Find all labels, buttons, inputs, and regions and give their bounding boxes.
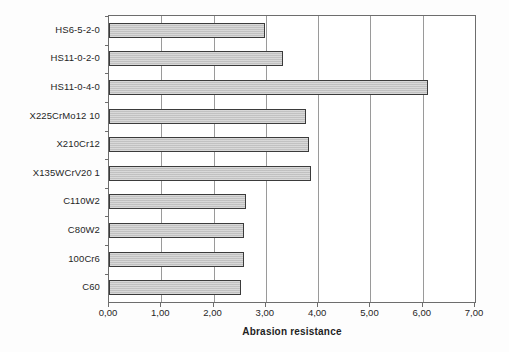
x-axis-tick-label: 7,00 xyxy=(465,307,484,319)
bar xyxy=(109,23,265,38)
category-label: C80W2 xyxy=(8,224,104,235)
y-axis-tick xyxy=(105,188,109,189)
x-axis-tick-label: 6,00 xyxy=(412,307,431,319)
bar-row xyxy=(109,137,475,153)
x-axis-tick-labels: 0,001,002,003,004,005,006,007,00 xyxy=(108,307,476,321)
y-axis-tick xyxy=(105,274,109,275)
bar-row xyxy=(109,251,475,267)
category-label: HS6-5-2-0 xyxy=(8,24,104,35)
bar-row xyxy=(109,22,475,38)
bars-layer xyxy=(109,16,475,302)
x-axis-tick-label: 4,00 xyxy=(308,307,327,319)
y-axis-tick xyxy=(105,216,109,217)
bar-row xyxy=(109,280,475,296)
category-label: X210Cr12 xyxy=(8,138,104,149)
bar xyxy=(109,280,241,295)
y-axis-tick xyxy=(105,131,109,132)
bar-row xyxy=(109,222,475,238)
x-axis-tick-label: 2,00 xyxy=(203,307,222,319)
x-axis-tick-label: 0,00 xyxy=(99,307,118,319)
x-axis-title: Abrasion resistance xyxy=(108,326,476,337)
bar xyxy=(109,252,244,267)
category-label: X135WCrV20 1 xyxy=(8,167,104,178)
category-axis: HS6-5-2-0HS11-0-2-0HS11-0-4-0X225CrMo12 … xyxy=(8,15,104,301)
y-axis-tick xyxy=(105,102,109,103)
bar-row xyxy=(109,79,475,95)
y-axis-tick xyxy=(105,73,109,74)
category-label: 100Cr6 xyxy=(8,253,104,264)
bar-chart: HS6-5-2-0HS11-0-2-0HS11-0-4-0X225CrMo12 … xyxy=(0,0,509,352)
plot-area xyxy=(108,15,476,303)
category-label: HS11-0-4-0 xyxy=(8,81,104,92)
bar-row xyxy=(109,51,475,67)
y-axis-tick xyxy=(105,159,109,160)
bar xyxy=(109,109,306,124)
category-label: X225CrMo12 10 xyxy=(8,110,104,121)
bar xyxy=(109,80,428,95)
y-axis-tick xyxy=(105,245,109,246)
bar-row xyxy=(109,108,475,124)
x-axis-tick-label: 5,00 xyxy=(360,307,379,319)
y-axis-tick xyxy=(105,45,109,46)
category-label: C110W2 xyxy=(8,195,104,206)
y-axis-tick xyxy=(105,16,109,17)
category-label: C60 xyxy=(8,281,104,292)
bar xyxy=(109,223,244,238)
bar xyxy=(109,194,246,209)
category-label: HS11-0-2-0 xyxy=(8,52,104,63)
bar xyxy=(109,166,311,181)
bar xyxy=(109,51,283,66)
bar-row xyxy=(109,165,475,181)
x-axis-tick-label: 3,00 xyxy=(256,307,275,319)
bar xyxy=(109,137,309,152)
bar-row xyxy=(109,194,475,210)
x-axis-tick-label: 1,00 xyxy=(151,307,170,319)
